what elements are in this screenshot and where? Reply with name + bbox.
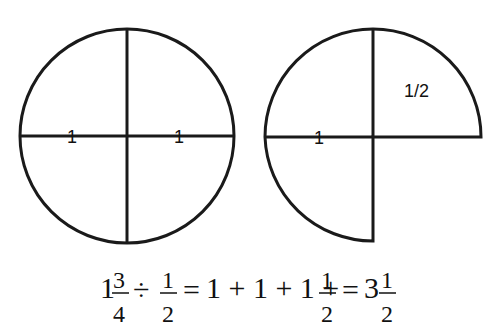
eq-result-whole: 3	[364, 271, 379, 304]
eq-equals-1: =	[183, 273, 200, 306]
right-three-quarter-shape	[265, 29, 481, 241]
eq-frac3-num: 1	[321, 270, 333, 293]
eq-frac2-num: 1	[162, 270, 174, 293]
eq-ones: 1 + 1 + 1 +	[206, 271, 339, 304]
eq-frac2-den: 2	[162, 301, 174, 327]
eq-frac1-num: 3	[113, 270, 125, 293]
equation: 1 3 4 ÷ 1 2 = 1 + 1 + 1 + 1 2 = 3 1 2	[0, 270, 492, 330]
left-circle-label-2: 1	[174, 127, 184, 147]
right-shape-label-1: 1	[314, 128, 324, 148]
eq-frac4-den: 2	[381, 301, 393, 327]
right-shape-label-half: 1/2	[404, 81, 429, 101]
eq-frac1-den: 4	[113, 301, 125, 327]
fraction-diagram: 1 1 1 1/2	[0, 0, 492, 270]
eq-frac3-den: 2	[321, 301, 333, 327]
eq-equals-2: =	[342, 273, 359, 306]
eq-div: ÷	[133, 273, 149, 306]
left-circle	[20, 29, 234, 243]
eq-frac4-num: 1	[381, 270, 393, 293]
left-circle-label-1: 1	[67, 127, 77, 147]
